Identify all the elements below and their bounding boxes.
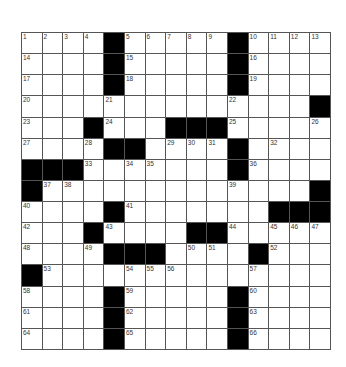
grid-cell[interactable]	[84, 75, 104, 95]
grid-cell[interactable]	[166, 54, 186, 74]
grid-cell[interactable]	[290, 287, 310, 307]
grid-cell[interactable]	[310, 244, 330, 264]
grid-cell[interactable]	[63, 244, 83, 264]
grid-cell[interactable]	[84, 265, 104, 285]
grid-cell[interactable]	[207, 160, 227, 180]
grid-cell[interactable]	[43, 54, 63, 74]
grid-cell[interactable]	[310, 54, 330, 74]
grid-cell[interactable]	[43, 118, 63, 138]
grid-cell[interactable]	[125, 223, 145, 243]
grid-cell[interactable]	[310, 75, 330, 95]
grid-cell[interactable]	[43, 96, 63, 116]
grid-cell[interactable]	[207, 202, 227, 222]
grid-cell[interactable]	[310, 308, 330, 328]
grid-cell[interactable]	[228, 202, 248, 222]
grid-cell[interactable]: 31	[207, 139, 227, 159]
grid-cell[interactable]	[269, 287, 289, 307]
grid-cell[interactable]	[207, 265, 227, 285]
grid-cell[interactable]	[125, 181, 145, 201]
grid-cell[interactable]	[84, 308, 104, 328]
grid-cell[interactable]: 64	[22, 329, 42, 349]
grid-cell[interactable]	[290, 181, 310, 201]
grid-cell[interactable]	[249, 118, 269, 138]
grid-cell[interactable]	[290, 265, 310, 285]
grid-cell[interactable]: 11	[269, 33, 289, 53]
grid-cell[interactable]: 29	[166, 139, 186, 159]
grid-cell[interactable]	[187, 96, 207, 116]
grid-cell[interactable]	[43, 308, 63, 328]
grid-cell[interactable]: 28	[84, 139, 104, 159]
grid-cell[interactable]	[63, 223, 83, 243]
grid-cell[interactable]	[207, 54, 227, 74]
grid-cell[interactable]	[166, 223, 186, 243]
grid-cell[interactable]	[269, 181, 289, 201]
grid-cell[interactable]	[43, 139, 63, 159]
grid-cell[interactable]	[290, 118, 310, 138]
grid-cell[interactable]	[207, 96, 227, 116]
grid-cell[interactable]	[249, 223, 269, 243]
grid-cell[interactable]: 19	[249, 75, 269, 95]
grid-cell[interactable]: 7	[166, 33, 186, 53]
grid-cell[interactable]	[187, 287, 207, 307]
grid-cell[interactable]	[63, 54, 83, 74]
grid-cell[interactable]	[228, 244, 248, 264]
grid-cell[interactable]	[43, 329, 63, 349]
grid-cell[interactable]	[166, 329, 186, 349]
grid-cell[interactable]	[187, 265, 207, 285]
grid-cell[interactable]	[249, 139, 269, 159]
grid-cell[interactable]	[166, 160, 186, 180]
grid-cell[interactable]	[166, 287, 186, 307]
grid-cell[interactable]	[146, 139, 166, 159]
grid-cell[interactable]: 36	[249, 160, 269, 180]
grid-cell[interactable]	[269, 96, 289, 116]
grid-cell[interactable]: 4	[84, 33, 104, 53]
grid-cell[interactable]	[187, 329, 207, 349]
grid-cell[interactable]	[125, 118, 145, 138]
grid-cell[interactable]: 56	[166, 265, 186, 285]
grid-cell[interactable]	[43, 287, 63, 307]
grid-cell[interactable]: 12	[290, 33, 310, 53]
grid-cell[interactable]	[290, 160, 310, 180]
grid-cell[interactable]: 45	[269, 223, 289, 243]
grid-cell[interactable]: 43	[104, 223, 124, 243]
grid-cell[interactable]: 14	[22, 54, 42, 74]
grid-cell[interactable]	[207, 308, 227, 328]
grid-cell[interactable]: 25	[228, 118, 248, 138]
grid-cell[interactable]	[249, 202, 269, 222]
grid-cell[interactable]	[84, 96, 104, 116]
grid-cell[interactable]	[63, 96, 83, 116]
grid-cell[interactable]: 18	[125, 75, 145, 95]
grid-cell[interactable]: 17	[22, 75, 42, 95]
grid-cell[interactable]	[84, 202, 104, 222]
grid-cell[interactable]: 26	[310, 118, 330, 138]
grid-cell[interactable]: 8	[187, 33, 207, 53]
grid-cell[interactable]: 47	[310, 223, 330, 243]
grid-cell[interactable]: 9	[207, 33, 227, 53]
grid-cell[interactable]	[310, 139, 330, 159]
grid-cell[interactable]	[84, 54, 104, 74]
grid-cell[interactable]: 27	[22, 139, 42, 159]
grid-cell[interactable]	[104, 181, 124, 201]
grid-cell[interactable]: 50	[187, 244, 207, 264]
grid-cell[interactable]	[43, 202, 63, 222]
grid-cell[interactable]	[269, 54, 289, 74]
grid-cell[interactable]: 49	[84, 244, 104, 264]
grid-cell[interactable]	[269, 160, 289, 180]
grid-cell[interactable]	[249, 96, 269, 116]
grid-cell[interactable]	[187, 181, 207, 201]
grid-cell[interactable]: 15	[125, 54, 145, 74]
grid-cell[interactable]: 13	[310, 33, 330, 53]
grid-cell[interactable]	[249, 181, 269, 201]
grid-cell[interactable]: 58	[22, 287, 42, 307]
grid-cell[interactable]	[269, 329, 289, 349]
grid-cell[interactable]: 32	[269, 139, 289, 159]
grid-cell[interactable]	[84, 287, 104, 307]
grid-cell[interactable]: 24	[104, 118, 124, 138]
grid-cell[interactable]: 1	[22, 33, 42, 53]
grid-cell[interactable]	[310, 160, 330, 180]
grid-cell[interactable]	[125, 96, 145, 116]
grid-cell[interactable]	[310, 287, 330, 307]
grid-cell[interactable]: 33	[84, 160, 104, 180]
grid-cell[interactable]	[187, 202, 207, 222]
grid-cell[interactable]: 3	[63, 33, 83, 53]
